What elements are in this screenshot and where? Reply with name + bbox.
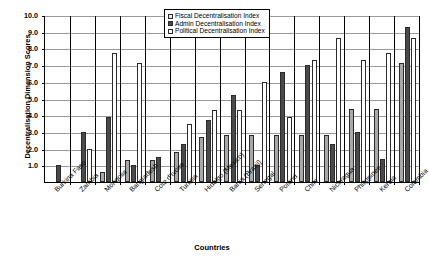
y-axis-tick xyxy=(42,166,45,167)
bar xyxy=(355,132,360,182)
bar-group xyxy=(345,16,370,182)
bar xyxy=(312,60,317,182)
bar xyxy=(380,159,385,182)
bar-group xyxy=(270,16,295,182)
y-axis-tick-label: 1.0 xyxy=(4,162,38,169)
bar-group xyxy=(395,16,420,182)
bar-group xyxy=(320,16,345,182)
y-axis-tick xyxy=(42,116,45,117)
bar xyxy=(199,137,204,182)
bar-group xyxy=(246,16,271,182)
legend-label: Fiscal Decentralisation Index xyxy=(175,12,259,20)
chart-legend: Fiscal Decentralisation IndexAdmin Decen… xyxy=(164,9,270,38)
y-axis-tick-label: 9.0 xyxy=(4,29,38,36)
bar xyxy=(324,135,329,182)
y-axis-tick-label: 2.0 xyxy=(4,146,38,153)
legend-item: Fiscal Decentralisation Index xyxy=(168,12,265,20)
bar-group xyxy=(96,16,121,182)
bar xyxy=(100,172,105,182)
y-axis-tick xyxy=(42,16,45,17)
y-axis-tick-label: 6.0 xyxy=(4,79,38,86)
bar-group xyxy=(295,16,320,182)
bar xyxy=(330,144,335,182)
legend-item: Admin Decentralisation Index xyxy=(168,20,265,28)
bar xyxy=(299,135,304,182)
legend-label: Political Decentralisation Index xyxy=(175,27,265,35)
bar xyxy=(206,120,211,182)
bar-group xyxy=(146,16,171,182)
y-axis-tick xyxy=(42,83,45,84)
y-axis-tick xyxy=(42,49,45,50)
bar xyxy=(411,38,416,182)
bar xyxy=(237,110,242,182)
bar-group xyxy=(171,16,196,182)
bar-group xyxy=(71,16,96,182)
bar xyxy=(336,38,341,182)
legend-swatch-icon xyxy=(168,29,173,34)
bar xyxy=(262,82,267,182)
y-axis-tick-label: 5.0 xyxy=(4,96,38,103)
bar-group xyxy=(196,16,221,182)
category-separator xyxy=(419,16,420,185)
bar xyxy=(81,132,86,182)
bar xyxy=(137,63,142,182)
y-axis-tick-label: 8.0 xyxy=(4,45,38,52)
bar xyxy=(106,117,111,182)
bar xyxy=(386,53,391,182)
legend-label: Admin Decentralisation Index xyxy=(175,20,261,28)
bar xyxy=(280,72,285,182)
bar xyxy=(305,65,310,182)
legend-swatch-icon xyxy=(168,21,173,26)
legend-item: Political Decentralisation Index xyxy=(168,27,265,35)
y-axis-tick-label: 10.0 xyxy=(4,12,38,19)
bar xyxy=(399,63,404,182)
bar xyxy=(287,117,292,182)
y-axis-tick-label: 7.0 xyxy=(4,62,38,69)
x-axis-title: Countries xyxy=(0,243,424,252)
y-axis-tick xyxy=(42,150,45,151)
y-axis-tick xyxy=(42,100,45,101)
y-axis-tick xyxy=(42,66,45,67)
legend-swatch-icon xyxy=(168,14,173,19)
bar xyxy=(212,110,217,182)
x-axis-labels: Burkina FasoZambiaMongoliaBangladeshCote… xyxy=(44,185,420,243)
y-axis-tick xyxy=(42,33,45,34)
y-axis-tick-label: 3.0 xyxy=(4,129,38,136)
bar-group xyxy=(121,16,146,182)
bar xyxy=(156,157,161,182)
bar xyxy=(405,27,410,182)
bar xyxy=(361,60,366,182)
bar xyxy=(112,53,117,182)
y-axis-tick xyxy=(42,133,45,134)
bar-group xyxy=(370,16,395,182)
bar-group xyxy=(46,16,71,182)
y-axis-tick-label: 4.0 xyxy=(4,112,38,119)
